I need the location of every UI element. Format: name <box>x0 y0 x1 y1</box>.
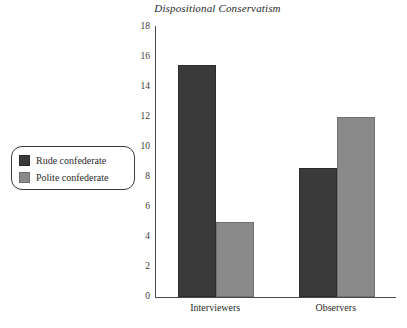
legend-item-polite: Polite confederate <box>19 169 134 186</box>
bar-observers-rude <box>299 168 337 297</box>
chart-legend: Rude confederate Polite confederate <box>11 146 135 190</box>
y-tick-4: 4 <box>124 232 150 242</box>
bar-interviewers-rude <box>178 65 216 298</box>
legend-swatch-polite-icon <box>19 172 30 183</box>
legend-label-rude: Rude confederate <box>36 156 106 166</box>
x-label-observers: Observers <box>315 302 356 313</box>
y-tick-12: 12 <box>124 112 150 122</box>
chart-figure: Dispositional Conservatism 1816141210864… <box>0 0 407 328</box>
y-tick-6: 6 <box>124 202 150 212</box>
chart-title: Dispositional Conservatism <box>0 2 407 14</box>
legend-swatch-rude-icon <box>19 155 30 166</box>
y-tick-2: 2 <box>124 262 150 272</box>
x-axis-line <box>155 297 396 298</box>
y-tick-0: 0 <box>124 292 150 302</box>
bars-layer <box>155 27 396 297</box>
y-tick-14: 14 <box>124 82 150 92</box>
y-tick-18: 18 <box>124 22 150 32</box>
legend-label-polite: Polite confederate <box>36 173 108 183</box>
bar-observers-polite <box>337 117 375 297</box>
legend-item-rude: Rude confederate <box>19 152 134 169</box>
bar-interviewers-polite <box>216 222 254 297</box>
x-label-interviewers: Interviewers <box>190 302 240 313</box>
y-tick-16: 16 <box>124 52 150 62</box>
